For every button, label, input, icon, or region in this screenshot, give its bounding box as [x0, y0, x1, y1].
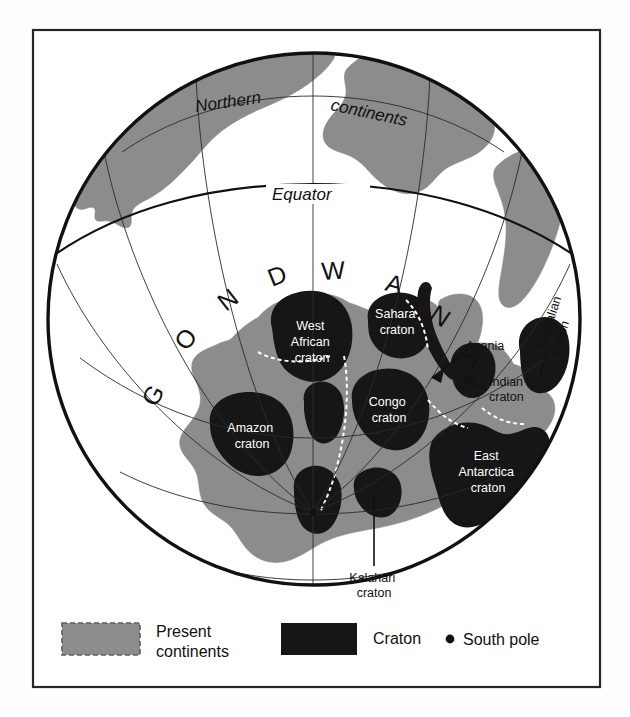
legend-swatch-present-continents — [62, 623, 140, 655]
label-congo-line-1: Congo — [369, 395, 406, 409]
legend-swatch-craton — [281, 623, 357, 655]
label-west-african-line-3: craton — [295, 351, 330, 365]
label-kalahari-line-2: craton — [357, 586, 392, 600]
label-congo-line-2: craton — [372, 411, 407, 425]
label-kalahari: Kalahari craton — [349, 571, 398, 600]
label-indian: Indian craton — [489, 375, 527, 404]
label-amazon-line-1: Amazon — [227, 421, 273, 435]
label-east-antarctica-line-3: craton — [471, 481, 506, 495]
gondwana-figure: Northern continents Equator G O N D W A … — [0, 0, 630, 717]
legend-present-line-1: Present — [156, 623, 212, 640]
legend-swatch-south-pole — [446, 635, 455, 644]
label-sahara-line-1: Sahara — [375, 307, 415, 321]
label-sahara-line-2: craton — [380, 323, 415, 337]
legend-present-line-2: continents — [156, 643, 229, 660]
label-east-antarctica-line-2: Antarctica — [458, 465, 514, 479]
label-kalahari-line-1: Kalahari — [349, 571, 395, 585]
legend-label-south-pole: South pole — [463, 631, 540, 648]
gondwana-letter-W: W — [320, 255, 346, 285]
label-west-african: West African craton — [291, 319, 333, 365]
label-west-african-line-1: West — [296, 319, 325, 333]
label-amazon-line-2: craton — [235, 437, 270, 451]
label-east-antarctica-line-1: East — [474, 449, 500, 463]
equator-label: Equator — [272, 185, 333, 204]
label-west-african-line-2: African — [291, 335, 330, 349]
legend-label-craton: Craton — [373, 630, 421, 647]
label-azania: Azania — [466, 339, 504, 353]
gondwana-svg: Northern continents Equator G O N D W A … — [0, 0, 630, 717]
label-indian-line-1: Indian — [489, 375, 523, 389]
south-pole-dot — [310, 509, 317, 516]
label-indian-line-2: craton — [489, 390, 524, 404]
equator-label-group: Equator — [266, 184, 370, 204]
